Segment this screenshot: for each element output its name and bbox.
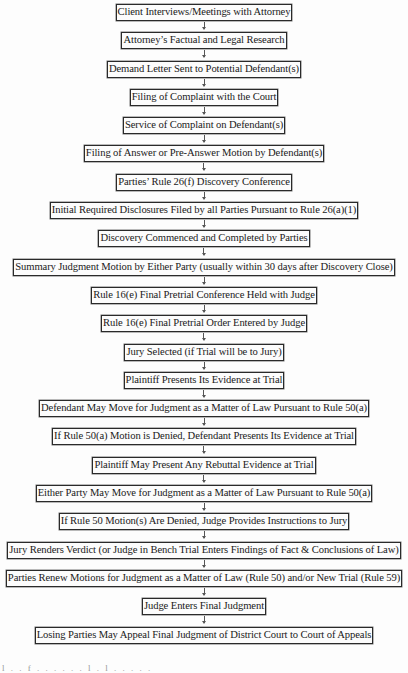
step-box: Plaintiff Presents Its Evidence at Trial <box>124 372 285 389</box>
flow-step-16: If Rule 50(a) Motion is Denied, Defendan… <box>52 428 356 456</box>
flow-step-4: Filing of Complaint with the Court <box>130 89 279 117</box>
flow-step-18: Either Party May Move for Judgment as a … <box>36 485 373 513</box>
step-box: Losing Parties May Appeal Final Judgment… <box>35 627 374 644</box>
step-box: Client Interviews/Meetings with Attorney <box>116 4 293 21</box>
step-box: Rule 16(e) Final Pretrial Order Entered … <box>101 315 307 332</box>
down-arrow-icon <box>199 276 209 287</box>
flow-step-21: Parties Renew Motions for Judgment as a … <box>6 570 402 598</box>
step-box: Discovery Commenced and Completed by Par… <box>98 230 309 247</box>
down-arrow-icon <box>199 49 209 60</box>
step-box: Attorney’s Factual and Legal Research <box>121 32 286 49</box>
flow-step-15: Defendant May Move for Judgment as a Mat… <box>39 400 369 428</box>
step-box: Parties Renew Motions for Judgment as a … <box>6 570 402 587</box>
down-arrow-icon <box>199 21 209 32</box>
down-arrow-icon <box>199 445 209 456</box>
flow-step-12: Rule 16(e) Final Pretrial Order Entered … <box>101 315 307 343</box>
down-arrow-icon <box>199 191 209 202</box>
step-box: Jury Selected (if Trial will be to Jury) <box>124 344 283 361</box>
cropped-footer-text: l . . f . . . . . . l . l . . . . . <box>2 663 152 673</box>
flow-step-11: Rule 16(e) Final Pretrial Conference Hel… <box>91 287 317 315</box>
down-arrow-icon <box>199 247 209 258</box>
step-box: Judge Enters Final Judgment <box>142 598 266 615</box>
down-arrow-icon <box>199 219 209 230</box>
down-arrow-icon <box>199 417 209 428</box>
flow-step-10: Summary Judgment Motion by Either Party … <box>13 259 394 287</box>
down-arrow-icon <box>199 162 209 173</box>
flow-step-2: Attorney’s Factual and Legal Research <box>121 32 286 60</box>
flow-step-5: Service of Complaint on Defendant(s) <box>123 117 285 145</box>
down-arrow-icon <box>199 587 209 598</box>
down-arrow-icon <box>199 502 209 513</box>
flow-step-3: Demand Letter Sent to Potential Defendan… <box>107 61 301 89</box>
flow-step-8: Initial Required Disclosures Filed by al… <box>50 202 358 230</box>
step-box: Rule 16(e) Final Pretrial Conference Hel… <box>91 287 317 304</box>
step-box: Parties’ Rule 26(f) Discovery Conference <box>116 174 292 191</box>
step-box: Filing of Complaint with the Court <box>130 89 279 106</box>
step-box: Jury Renders Verdict (or Judge in Bench … <box>7 542 400 559</box>
down-arrow-icon <box>199 559 209 570</box>
down-arrow-icon <box>199 389 209 400</box>
down-arrow-icon <box>199 134 209 145</box>
step-box: Defendant May Move for Judgment as a Mat… <box>39 400 369 417</box>
down-arrow-icon <box>199 615 209 626</box>
down-arrow-icon <box>199 474 209 485</box>
down-arrow-icon <box>199 332 209 343</box>
step-box: Service of Complaint on Defendant(s) <box>123 117 285 134</box>
flow-step-17: Plaintiff May Present Any Rebuttal Evide… <box>92 457 315 485</box>
step-box: Demand Letter Sent to Potential Defendan… <box>107 61 301 78</box>
flow-step-22: Judge Enters Final Judgment <box>142 598 266 626</box>
flow-step-19: If Rule 50 Motion(s) Are Denied, Judge P… <box>59 513 350 541</box>
down-arrow-icon <box>199 78 209 89</box>
flow-step-6: Filing of Answer or Pre-Answer Motion by… <box>84 145 324 173</box>
flow-step-1: Client Interviews/Meetings with Attorney <box>116 4 293 32</box>
flow-step-20: Jury Renders Verdict (or Judge in Bench … <box>7 542 400 570</box>
down-arrow-icon <box>199 530 209 541</box>
step-box: If Rule 50(a) Motion is Denied, Defendan… <box>52 428 356 445</box>
flow-step-14: Plaintiff Presents Its Evidence at Trial <box>124 372 285 400</box>
down-arrow-icon <box>199 361 209 372</box>
flow-step-9: Discovery Commenced and Completed by Par… <box>98 230 309 258</box>
litigation-flowchart: Client Interviews/Meetings with Attorney… <box>0 4 408 644</box>
step-box: Initial Required Disclosures Filed by al… <box>50 202 358 219</box>
step-box: Plaintiff May Present Any Rebuttal Evide… <box>92 457 315 474</box>
step-box: Either Party May Move for Judgment as a … <box>36 485 373 502</box>
step-box: Summary Judgment Motion by Either Party … <box>13 259 394 276</box>
flow-step-23: Losing Parties May Appeal Final Judgment… <box>35 627 374 644</box>
flow-step-7: Parties’ Rule 26(f) Discovery Conference <box>116 174 292 202</box>
step-box: If Rule 50 Motion(s) Are Denied, Judge P… <box>59 513 350 530</box>
down-arrow-icon <box>199 304 209 315</box>
flow-step-13: Jury Selected (if Trial will be to Jury) <box>124 344 283 372</box>
step-box: Filing of Answer or Pre-Answer Motion by… <box>84 145 324 162</box>
down-arrow-icon <box>199 106 209 117</box>
